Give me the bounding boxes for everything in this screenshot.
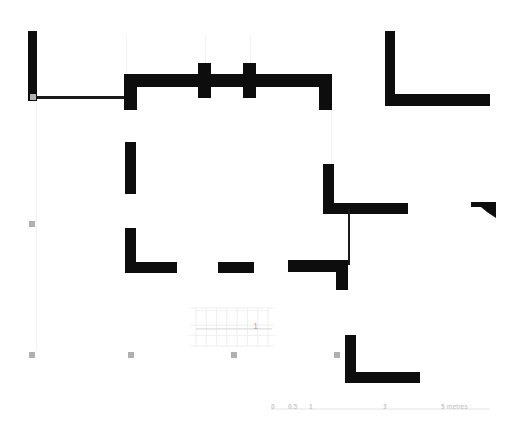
wall-south-right-return bbox=[336, 260, 348, 290]
wall-south-mid-segment bbox=[218, 262, 254, 273]
marker-wall-junction bbox=[30, 94, 36, 100]
guide-vertical-left bbox=[36, 100, 37, 350]
wall-pier-right bbox=[243, 63, 256, 98]
wall-north-left-return bbox=[124, 74, 137, 110]
scale-tick-label: 3 bbox=[383, 403, 387, 410]
wall-northeast-vertical bbox=[385, 31, 395, 101]
wall-north-right-return bbox=[319, 74, 332, 110]
survey-markers-group bbox=[29, 94, 340, 358]
wall-far-east-wedge bbox=[471, 202, 496, 218]
guide-vertical-a bbox=[126, 36, 127, 76]
marker-right-bottom bbox=[231, 352, 237, 358]
marker-far-right-bottom bbox=[334, 352, 340, 358]
wedge-wall-group bbox=[471, 202, 496, 218]
scale-tick-label: 5 metres bbox=[441, 403, 468, 410]
wall-south-left-segment bbox=[125, 262, 177, 273]
wall-east-interior-horizontal bbox=[323, 203, 408, 214]
wall-north-main-horizontal bbox=[124, 74, 332, 87]
stair-hatching-group bbox=[190, 308, 274, 346]
floor-plan-canvas: 1 00.5135 metres bbox=[0, 0, 515, 424]
wall-left-outer-vertical bbox=[28, 31, 37, 101]
walls-group bbox=[28, 31, 490, 383]
wall-southeast-horizontal bbox=[345, 372, 420, 383]
marker-center-bottom bbox=[128, 352, 134, 358]
floor-plan-drawing bbox=[0, 0, 515, 424]
guide-vertical-b bbox=[205, 36, 206, 66]
scale-tick-label: 1 bbox=[309, 403, 313, 410]
guide-vertical-c bbox=[250, 36, 251, 66]
wall-left-horizontal-thin bbox=[33, 96, 126, 99]
scale-tick-label: 0.5 bbox=[288, 403, 298, 410]
marker-left-bottom bbox=[29, 352, 35, 358]
room-number-label: 1 bbox=[253, 321, 258, 331]
scale-tick-label: 0 bbox=[271, 403, 275, 410]
marker-left-mid bbox=[29, 221, 35, 227]
wall-northeast-horizontal bbox=[385, 94, 490, 106]
wall-west-interior-upper bbox=[125, 142, 136, 194]
wall-east-interior-thin bbox=[348, 209, 350, 265]
wall-pier-left bbox=[198, 63, 211, 98]
